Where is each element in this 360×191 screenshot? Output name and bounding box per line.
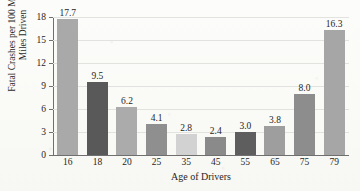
y-axis-title: Fatal Crashes per 100 Million Miles Driv… xyxy=(7,0,29,105)
y-axis-tick-label: 15 xyxy=(37,35,47,45)
bar-value-label: 17.7 xyxy=(59,8,76,18)
bar xyxy=(176,134,197,155)
y-axis-tick-label: 9 xyxy=(41,81,46,91)
x-axis-tick-label: 45 xyxy=(205,157,226,170)
x-axis-tick-label: 75 xyxy=(294,157,315,170)
x-axis-line xyxy=(52,155,349,156)
x-axis-tick-label: 18 xyxy=(87,157,108,170)
bar-value-label: 4.1 xyxy=(151,113,163,123)
bar-item: 8.0 xyxy=(294,17,315,155)
y-axis-title-line-1: Fatal Crashes per 100 Million xyxy=(7,0,18,105)
bar-item: 16.3 xyxy=(324,17,345,155)
bar xyxy=(324,30,345,155)
x-axis-tick-label: 65 xyxy=(264,157,285,170)
bar-value-label: 3.0 xyxy=(239,121,251,131)
bar-value-label: 2.4 xyxy=(210,126,222,136)
bar xyxy=(235,132,256,155)
y-axis-tick-label: 3 xyxy=(41,127,46,137)
bar-value-label: 3.8 xyxy=(269,115,281,125)
bar-series: 17.79.56.24.12.82.43.03.88.016.3 xyxy=(53,17,349,155)
y-axis-tick-label: 18 xyxy=(37,12,47,22)
bar-item: 2.8 xyxy=(176,17,197,155)
y-axis-title-line-2: Miles Driven xyxy=(18,0,29,105)
bar xyxy=(57,19,78,155)
bar xyxy=(264,126,285,155)
bar-value-label: 6.2 xyxy=(121,96,133,106)
bar xyxy=(116,107,137,155)
x-axis-tick-label: 20 xyxy=(116,157,137,170)
bar-value-label: 2.8 xyxy=(180,123,192,133)
y-axis-tick-label: 12 xyxy=(37,58,47,68)
bar-item: 9.5 xyxy=(87,17,108,155)
x-axis-tick-label: 35 xyxy=(176,157,197,170)
y-axis-tick xyxy=(49,155,53,156)
bar-item: 17.7 xyxy=(57,17,78,155)
bar-item: 6.2 xyxy=(116,17,137,155)
x-axis-tick-label: 79 xyxy=(324,157,345,170)
bar-item: 4.1 xyxy=(146,17,167,155)
y-axis-tick-label: 0 xyxy=(41,150,46,160)
x-axis-tick-label: 16 xyxy=(57,157,78,170)
bar-item: 2.4 xyxy=(205,17,226,155)
x-axis-title: Age of Drivers xyxy=(53,171,349,182)
chart-figure: Fatal Crashes per 100 Million Miles Driv… xyxy=(0,0,360,191)
x-axis-tick-labels: 16182025354555657579 xyxy=(53,157,349,170)
bar xyxy=(205,137,226,155)
chart-title-cropped xyxy=(110,0,260,5)
bar xyxy=(146,124,167,155)
bar-value-label: 9.5 xyxy=(91,71,103,81)
y-axis-tick-label: 6 xyxy=(41,104,46,114)
bar-value-label: 8.0 xyxy=(299,83,311,93)
bar xyxy=(294,94,315,155)
x-axis-tick-label: 55 xyxy=(235,157,256,170)
bar-item: 3.8 xyxy=(264,17,285,155)
x-axis-tick-label: 25 xyxy=(146,157,167,170)
bar-value-label: 16.3 xyxy=(326,19,343,29)
bar-item: 3.0 xyxy=(235,17,256,155)
bar xyxy=(87,82,108,155)
plot-area: 0369121518 17.79.56.24.12.82.43.03.88.01… xyxy=(53,17,349,155)
